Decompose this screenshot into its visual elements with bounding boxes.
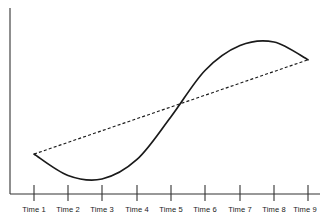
x-tick-label-7: Time 7 [228,205,252,214]
x-tick-label-1: Time 1 [22,205,46,214]
chart-plot-area [0,0,321,224]
x-tick-label-5: Time 5 [159,205,183,214]
x-tick-label-9: Time 9 [293,205,317,214]
actual-curve-solid [34,41,308,180]
x-axis-ticks [34,185,308,201]
trend-line-dashed [34,60,308,154]
x-tick-label-2: Time 2 [56,205,80,214]
x-tick-label-6: Time 6 [193,205,217,214]
x-tick-label-4: Time 4 [125,205,149,214]
chart-figure: Time 1 Time 2 Time 3 Time 4 Time 5 Time … [0,0,321,224]
x-tick-label-8: Time 8 [262,205,286,214]
x-tick-label-3: Time 3 [90,205,114,214]
